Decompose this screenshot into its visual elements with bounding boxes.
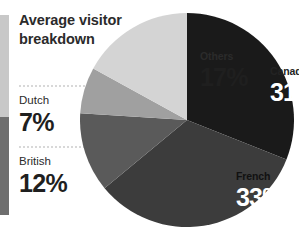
pie-label-canadian-value: 31% [270,79,299,105]
pie-label-others: Others 17% [200,51,248,90]
pie-label-others-name: Others [200,51,248,63]
visitor-breakdown-infographic: Average visitor breakdown Dutch 7% Briti… [0,0,299,235]
pie-label-french-value: 33% [236,184,284,210]
legend-swatch-dutch [0,15,9,117]
pie-label-canadian-name: Canadian [270,66,299,78]
pie-label-french: French 33% [236,171,284,210]
pie-label-french-name: French [236,171,284,183]
pie-label-others-value: 17% [200,64,248,90]
pie-label-canadian: Canadian 31% [270,66,299,105]
legend-swatch-british [0,117,9,215]
pie-chart: Others 17% Canadian 31% French 33% [80,13,294,227]
